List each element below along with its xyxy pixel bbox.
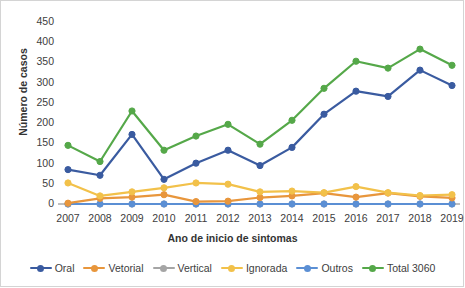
data-point <box>161 176 167 182</box>
data-point <box>353 88 359 94</box>
data-point <box>289 201 295 207</box>
x-tick-label: 2011 <box>179 212 213 224</box>
legend-label: Oral <box>55 262 75 274</box>
data-point <box>449 192 455 198</box>
data-point <box>97 193 103 199</box>
data-point <box>385 93 391 99</box>
y-tick-label: 50 <box>24 177 54 189</box>
data-point <box>385 65 391 71</box>
x-tick-label: 2016 <box>339 212 373 224</box>
y-tick-label: 250 <box>24 96 54 108</box>
data-point <box>289 188 295 194</box>
data-point <box>385 201 391 207</box>
data-point <box>321 85 327 91</box>
data-point <box>321 111 327 117</box>
legend-item-oral[interactable]: Oral <box>30 262 75 274</box>
x-tick-label: 2007 <box>51 212 85 224</box>
data-point <box>193 198 199 204</box>
data-point <box>65 142 71 148</box>
data-point <box>257 189 263 195</box>
legend-item-outros[interactable]: Outros <box>296 262 353 274</box>
legend-marker-icon <box>362 264 384 273</box>
y-tick-label: 100 <box>24 157 54 169</box>
data-point <box>321 190 327 196</box>
legend-item-ignorada[interactable]: Ignorada <box>221 262 287 274</box>
legend-marker-icon <box>83 264 105 273</box>
data-point <box>449 62 455 68</box>
data-point <box>193 160 199 166</box>
data-point <box>129 108 135 114</box>
legend-label: Vertical <box>178 262 212 274</box>
data-point <box>129 131 135 137</box>
data-point <box>97 158 103 164</box>
data-point <box>353 194 359 200</box>
data-point <box>161 201 167 207</box>
x-axis-title: Ano de inicio de sintomas <box>0 232 465 244</box>
x-tick-label: 2012 <box>211 212 245 224</box>
y-tick-label: 200 <box>24 116 54 128</box>
x-tick-label: 2018 <box>403 212 437 224</box>
data-point <box>321 201 327 207</box>
x-tick-label: 2014 <box>275 212 309 224</box>
y-tick-label: 300 <box>24 76 54 88</box>
legend-item-vetorial[interactable]: Vetorial <box>83 262 143 274</box>
y-tick-label: 450 <box>24 15 54 27</box>
data-point <box>97 172 103 178</box>
data-point <box>449 201 455 207</box>
legend-marker-icon <box>221 264 243 273</box>
data-point <box>225 147 231 153</box>
x-tick-label: 2013 <box>243 212 277 224</box>
data-point <box>161 147 167 153</box>
data-point <box>417 46 423 52</box>
series-outros <box>65 201 455 207</box>
data-point <box>257 162 263 168</box>
y-tick-label: 0 <box>24 197 54 209</box>
data-point <box>65 180 71 186</box>
data-point <box>353 201 359 207</box>
data-point <box>225 181 231 187</box>
data-point <box>161 192 167 198</box>
legend-label: Total 3060 <box>387 262 435 274</box>
data-point <box>449 82 455 88</box>
x-tick-label: 2015 <box>307 212 341 224</box>
x-tick-label: 2008 <box>83 212 117 224</box>
y-tick-label: 150 <box>24 136 54 148</box>
data-point <box>65 167 71 173</box>
legend-marker-icon <box>30 264 52 273</box>
chart-legend: OralVetorialVerticalIgnoradaOutrosTotal … <box>0 262 465 274</box>
data-point <box>417 192 423 198</box>
legend-item-total-3060[interactable]: Total 3060 <box>362 262 435 274</box>
legend-label: Vetorial <box>108 262 143 274</box>
data-point <box>129 201 135 207</box>
data-point <box>417 67 423 73</box>
data-point <box>289 144 295 150</box>
data-point <box>257 141 263 147</box>
legend-label: Outros <box>321 262 353 274</box>
data-point <box>161 185 167 191</box>
data-point <box>353 184 359 190</box>
data-point <box>385 190 391 196</box>
legend-marker-icon <box>153 264 175 273</box>
y-tick-label: 400 <box>24 35 54 47</box>
data-point <box>225 121 231 127</box>
data-point <box>353 58 359 64</box>
chart-canvas <box>0 0 465 288</box>
data-point <box>257 201 263 207</box>
data-point <box>129 189 135 195</box>
x-tick-label: 2010 <box>147 212 181 224</box>
legend-item-vertical[interactable]: Vertical <box>153 262 212 274</box>
data-point <box>289 117 295 123</box>
data-point <box>417 201 423 207</box>
data-point <box>225 198 231 204</box>
x-tick-label: 2019 <box>435 212 465 224</box>
legend-label: Ignorada <box>246 262 287 274</box>
x-tick-label: 2017 <box>371 212 405 224</box>
legend-marker-icon <box>296 264 318 273</box>
data-point <box>193 180 199 186</box>
y-tick-label: 350 <box>24 55 54 67</box>
data-point <box>65 200 71 206</box>
line-chart: Número de casos Ano de inicio de sintoma… <box>0 0 465 288</box>
x-tick-label: 2009 <box>115 212 149 224</box>
data-point <box>193 133 199 139</box>
